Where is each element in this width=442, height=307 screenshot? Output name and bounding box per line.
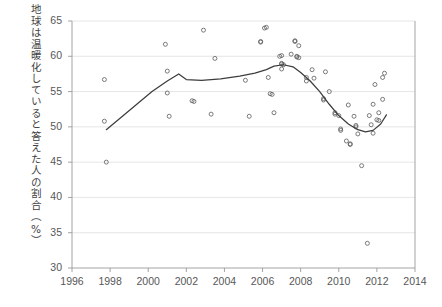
tick-marks: [68, 21, 415, 272]
gridlines: [72, 21, 415, 233]
plot-canvas: [0, 0, 442, 307]
axes: [72, 21, 415, 268]
trend-line: [106, 65, 386, 132]
scatter-points: [102, 25, 386, 245]
chart-figure: 地球は温暖化していると答えた人の割合（%） 3035404550556065 1…: [0, 0, 442, 307]
